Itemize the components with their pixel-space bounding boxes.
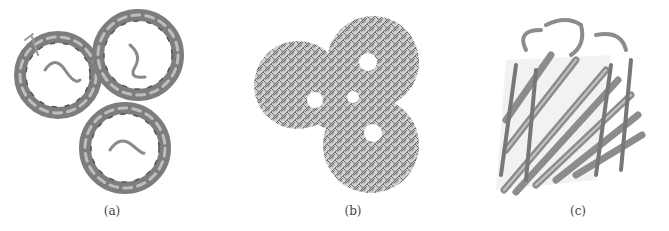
panel-label-a: (a)	[92, 204, 132, 218]
trimer-ribbon-image	[0, 0, 223, 200]
panel-c: (c)	[446, 0, 669, 231]
panel-b: (b)	[223, 0, 446, 231]
panel-label-c: (c)	[558, 204, 598, 218]
panel-a: (a)	[0, 0, 223, 231]
trimer-stick-image	[223, 0, 446, 200]
panel-label-b: (b)	[333, 204, 373, 218]
beta-barrel-image	[446, 0, 669, 200]
